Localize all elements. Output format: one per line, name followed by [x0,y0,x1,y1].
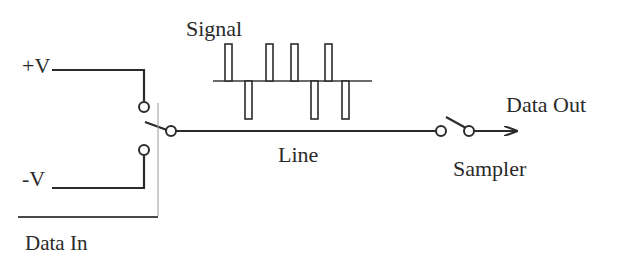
data-out-label: Data Out [506,92,586,117]
signal-pulse-down [245,81,252,119]
plus-v-wire [52,70,144,101]
line-label: Line [278,142,318,167]
input-switch-common [166,126,176,136]
sampler-label: Sampler [453,156,527,181]
data-in-label: Data In [25,231,88,255]
signal-pulse-down [342,81,349,119]
sampler-switch-blade [446,117,466,128]
minus-v-wire [52,156,144,188]
input-switch-blade [145,122,167,130]
signal-pulse-up [266,44,273,81]
minus-v-contact [139,145,149,155]
signal-transmission-diagram: +V -V Data In Line Signal Data Out Sampl… [0,0,621,265]
signal-label: Signal [186,16,242,41]
plus-v-label: +V [22,53,50,78]
signal-waveform [213,44,372,119]
signal-pulse-up [225,44,232,81]
signal-pulse-up [291,44,298,81]
sampler-input-contact [436,126,446,136]
minus-v-label: -V [22,166,45,191]
plus-v-contact [139,102,149,112]
sampler-output-contact [464,126,474,136]
signal-pulse-up [325,44,332,81]
signal-pulse-down [311,81,318,119]
